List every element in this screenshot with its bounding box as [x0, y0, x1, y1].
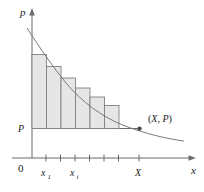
x-tick-label-end: X [134, 167, 142, 178]
y-axis-arrowhead [29, 8, 35, 16]
rectangle-5 [90, 97, 105, 129]
point-annotation-close-paren: ) [169, 113, 172, 125]
demand-curve-chart: p x 0 P x 1 x i X (X, P) [0, 0, 204, 192]
rectangle-4 [76, 88, 91, 129]
figure-container: p x 0 P x 1 x i X (X, P) [0, 0, 204, 192]
x-tick-label-first-base: x [40, 167, 46, 178]
x-tick-label-middle-subscript: i [77, 173, 79, 181]
rectangle-1 [32, 55, 47, 129]
x-tick-label-first-subscript: 1 [48, 173, 52, 181]
point-X-P-marker [137, 126, 141, 130]
x-tick-label-middle: x i [69, 167, 79, 181]
y-axis-label: p [19, 6, 26, 18]
x-tick-label-middle-base: x [69, 167, 75, 178]
point-annotation-p: P [161, 113, 168, 124]
svg-text:(X, P): (X, P) [148, 113, 172, 125]
price-level-label: P [17, 123, 24, 134]
origin-label: 0 [18, 162, 24, 174]
point-annotation-label: (X, P) [148, 113, 172, 125]
x-tick-label-first: x 1 [40, 167, 51, 181]
rectangle-2 [47, 67, 62, 129]
x-axis-arrowhead [189, 155, 197, 161]
x-axis-label: x [190, 164, 196, 176]
